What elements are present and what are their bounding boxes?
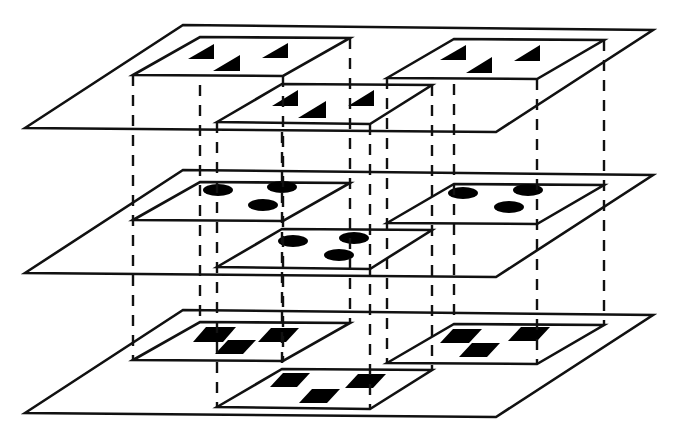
- top-layer: [25, 25, 653, 132]
- layered-squares-diagram: [0, 0, 684, 439]
- ellipse-icon: [513, 184, 543, 196]
- bottom-layer: [25, 310, 653, 417]
- middle-layer: [25, 170, 653, 277]
- ellipse-icon: [448, 187, 478, 199]
- layers-root: [25, 25, 653, 417]
- ellipse-icon: [339, 232, 369, 244]
- ellipse-icon: [248, 199, 278, 211]
- ellipse-icon: [494, 201, 524, 213]
